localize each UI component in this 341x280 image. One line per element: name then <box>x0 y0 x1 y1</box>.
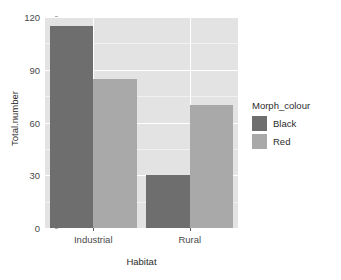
legend-item: Black <box>252 116 310 131</box>
y-tick-label: 120 <box>14 12 40 23</box>
x-tick-label: Rural <box>145 234 235 245</box>
plot-panel <box>45 17 238 228</box>
y-tick-label: 0 <box>14 223 40 234</box>
bar <box>146 175 189 228</box>
gridline-major-horizontal <box>45 17 238 18</box>
legend-swatch <box>252 116 267 131</box>
bar-chart: Total.number 0306090120 IndustrialRural … <box>0 0 341 280</box>
legend-title: Morph_colour <box>252 100 310 111</box>
y-tick-label: 90 <box>14 64 40 75</box>
bar <box>190 105 233 228</box>
legend-item: Red <box>252 134 310 149</box>
legend: Morph_colour BlackRed <box>252 100 310 152</box>
legend-label: Red <box>273 136 290 147</box>
legend-label: Black <box>273 118 296 129</box>
bar <box>93 79 136 228</box>
x-tick-mark <box>93 228 94 231</box>
y-tick-label: 60 <box>14 117 40 128</box>
y-axis-ticks: 0306090120 <box>14 0 40 280</box>
x-tick-mark <box>190 228 191 231</box>
x-axis-title: Habitat <box>45 256 238 267</box>
bar <box>50 26 93 228</box>
y-tick-label: 30 <box>14 170 40 181</box>
legend-swatch <box>252 134 267 149</box>
x-tick-label: Industrial <box>48 234 138 245</box>
